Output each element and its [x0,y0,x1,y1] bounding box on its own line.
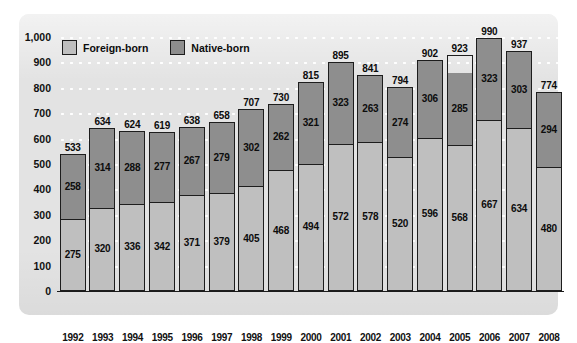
bar-segment-foreign-born[interactable]: 520 [388,158,412,290]
y-axis-tick-label: 200 [33,234,51,246]
bar-segment-value-foreign-born: 572 [333,212,349,222]
stacked-bar[interactable]: 321494815 [298,82,324,291]
x-axis-tick-label: 2001 [330,332,351,343]
bar-segment-foreign-born[interactable]: 371 [180,196,204,290]
bar-segment-value-native-born: 314 [94,163,110,173]
bar-segment-native-born[interactable]: 285 [448,73,472,145]
bar-segment-foreign-born[interactable]: 320 [90,209,114,290]
bar-segment-native-born[interactable]: 302 [239,110,263,187]
bar-segment-foreign-born[interactable]: 480 [537,168,561,290]
bar-segment-value-native-born: 267 [184,156,200,166]
bar-total-label: 638 [184,115,200,126]
bar-segment-native-born[interactable]: 323 [329,63,353,145]
bar-segment-native-born[interactable]: 323 [477,39,501,121]
x-axis-tick-label: 2005 [449,332,470,343]
bar-segment-native-born[interactable]: 258 [61,155,85,221]
bar-segment-foreign-born[interactable]: 342 [150,203,174,290]
bar-segment-native-born[interactable]: 274 [388,88,412,158]
stacked-bar[interactable]: 274520794 [387,87,413,291]
bar-segment-native-born[interactable]: 279 [210,123,234,194]
stacked-bar[interactable]: 262468730 [268,104,294,291]
bar-total-label: 624 [124,119,140,130]
bar-segment-value-foreign-born: 568 [452,213,468,223]
bar-segment-value-foreign-born: 379 [213,237,229,247]
x-axis-tick-label: 1997 [211,332,232,343]
x-axis-tick-label: 2000 [300,332,321,343]
x-axis-tick-label: 2007 [509,332,530,343]
bar-segment-value-native-born: 262 [273,132,289,142]
y-axis-tick-label: 700 [33,107,51,119]
stacked-bar[interactable]: 258275533 [60,154,86,291]
bar-segment-value-foreign-born: 634 [511,204,527,214]
bar-segment-native-born[interactable]: 277 [150,133,174,203]
x-axis-tick-label: 1996 [181,332,202,343]
x-axis-tick-label: 1993 [92,332,113,343]
bar-segment-native-born[interactable]: 263 [358,76,382,143]
x-axis-tick-label: 1995 [152,332,173,343]
bar-segment-value-foreign-born: 494 [303,222,319,232]
bar-segment-value-native-born: 302 [243,143,259,153]
bar-total-label: 815 [303,70,319,81]
bar-segment-value-foreign-born: 520 [392,219,408,229]
stacked-bar[interactable]: 323572895 [328,62,354,291]
bar-total-label: 841 [362,63,378,74]
bar-segment-foreign-born[interactable]: 379 [210,194,234,290]
x-axis-tick-label: 2006 [479,332,500,343]
bar-segment-native-born[interactable]: 294 [537,93,561,168]
stacked-bar[interactable]: 263578841 [357,75,383,291]
bar-segment-value-foreign-born: 667 [481,200,497,210]
bar-segment-foreign-born[interactable]: 275 [61,220,85,290]
bar-segment-foreign-born[interactable]: 405 [239,187,263,290]
bar-segment-foreign-born[interactable]: 568 [448,146,472,290]
bar-segment-value-native-born: 277 [154,162,170,172]
bar-segment-native-born[interactable]: 303 [507,52,531,129]
bar-segment-native-born[interactable]: 321 [299,83,323,165]
stacked-bar[interactable]: 279379658 [209,122,235,291]
x-axis-tick-label: 1992 [62,332,83,343]
stacked-bar[interactable]: 314320634 [89,128,115,291]
stacked-bar[interactable]: 323667990 [476,38,502,291]
bar-total-label: 658 [213,110,229,121]
bar-segment-value-native-born: 258 [65,182,81,192]
bar-segment-foreign-born[interactable]: 634 [507,129,531,290]
x-axis-tick-label: 1994 [122,332,143,343]
bar-segment-native-born[interactable]: 262 [269,105,293,172]
bar-segment-native-born[interactable]: 267 [180,128,204,196]
bar-segment-value-native-born: 263 [362,104,378,114]
y-axis-tick-label: 0 [45,285,51,297]
bar-segment-foreign-born[interactable]: 596 [418,139,442,290]
bar-segment-native-born[interactable]: 314 [90,129,114,209]
bar-segment-value-native-born: 294 [541,125,557,135]
bar-segment-foreign-born[interactable]: 336 [120,205,144,290]
bar-segment-value-foreign-born: 468 [273,226,289,236]
stacked-bar[interactable]: 303634937 [506,51,532,291]
stacked-bar[interactable]: 277342619 [149,132,175,291]
stacked-bar[interactable]: 285568923 [447,55,473,291]
legend-item-native-born[interactable]: Native-born [170,40,249,55]
bar-total-label: 634 [94,116,110,127]
stacked-bar[interactable]: 294480774 [536,92,562,291]
plot-area: 01002003004005006007008009001,000 258275… [58,37,564,291]
stacked-bar[interactable]: 306596902 [417,60,443,291]
legend-item-foreign-born[interactable]: Foreign-born [62,40,148,55]
bar-segment-foreign-born[interactable]: 578 [358,143,382,290]
bar-segment-native-born[interactable]: 288 [120,132,144,205]
bar-segment-foreign-born[interactable]: 572 [329,145,353,290]
chart-legend: Foreign-born Native-born [62,40,250,55]
y-axis-tick-label: 400 [33,183,51,195]
x-axis-tick-label: 2003 [390,332,411,343]
bar-segment-value-native-born: 279 [213,153,229,163]
stacked-bar[interactable]: 267371638 [179,127,205,291]
bar-total-label: 619 [154,120,170,131]
stacked-bar[interactable]: 288336624 [119,131,145,291]
bar-total-label: 730 [273,92,289,103]
x-axis-tick-label: 2002 [360,332,381,343]
stacked-bar[interactable]: 302405707 [238,109,264,291]
bar-segment-native-born[interactable]: 306 [418,61,442,139]
bar-segment-value-native-born: 323 [333,98,349,108]
bar-segment-value-native-born: 323 [481,74,497,84]
bar-segment-foreign-born[interactable]: 468 [269,171,293,290]
bar-segment-foreign-born[interactable]: 494 [299,165,323,290]
bar-segment-foreign-born[interactable]: 667 [477,121,501,290]
bar-segment-value-foreign-born: 578 [362,212,378,222]
